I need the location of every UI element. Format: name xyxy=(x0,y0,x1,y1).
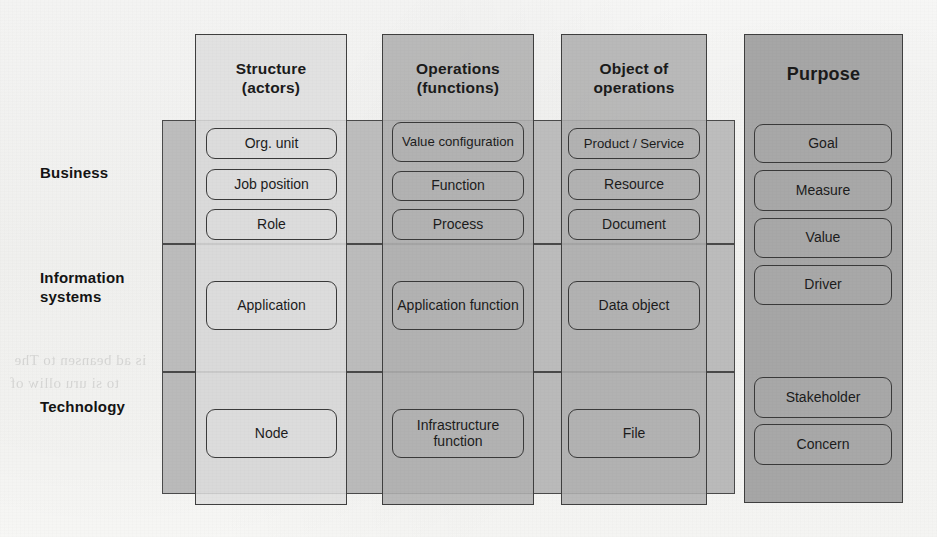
layer-label-information-systems-line1: Information xyxy=(40,268,170,287)
node-job-position[interactable]: Job position xyxy=(206,169,337,200)
aspect-column-structure-title-line2: (actors) xyxy=(196,78,346,97)
aspect-column-purpose-title-line1: Purpose xyxy=(745,65,902,84)
layer-label-business: Business xyxy=(40,163,158,182)
node-concern[interactable]: Concern xyxy=(754,424,892,465)
layer-label-information-systems: Information systems xyxy=(40,268,170,306)
aspect-column-object-of-operations-title: Object of operations xyxy=(562,59,706,97)
node-driver[interactable]: Driver xyxy=(754,265,892,305)
node-process[interactable]: Process xyxy=(392,209,524,240)
aspect-column-object-of-operations-title-line1: Object of xyxy=(562,59,706,78)
node-infrastructure-function[interactable]: Infrastructure function xyxy=(392,409,524,458)
node-resource[interactable]: Resource xyxy=(568,169,700,200)
node-function[interactable]: Function xyxy=(392,171,524,201)
aspect-column-operations-title: Operations (functions) xyxy=(383,59,533,97)
aspect-column-structure-title: Structure (actors) xyxy=(196,59,346,97)
aspect-column-object-of-operations-title-line2: operations xyxy=(562,78,706,97)
node-value-configuration[interactable]: Value configuration xyxy=(392,122,524,162)
aspect-column-purpose-title: Purpose xyxy=(745,65,902,84)
aspect-column-operations-title-line1: Operations xyxy=(383,59,533,78)
architecture-framework-diagram: Business Information systems Technology … xyxy=(0,0,937,537)
node-stakeholder[interactable]: Stakeholder xyxy=(754,377,892,418)
layer-label-technology: Technology xyxy=(40,397,170,416)
layer-label-information-systems-line2: systems xyxy=(40,287,170,306)
node-org-unit[interactable]: Org. unit xyxy=(206,128,337,159)
node-node[interactable]: Node xyxy=(206,409,337,458)
node-file[interactable]: File xyxy=(568,409,700,458)
node-application[interactable]: Application xyxy=(206,281,337,330)
node-measure[interactable]: Measure xyxy=(754,170,892,211)
node-application-function[interactable]: Application function xyxy=(392,281,524,330)
node-value[interactable]: Value xyxy=(754,218,892,258)
node-goal[interactable]: Goal xyxy=(754,124,892,163)
node-document[interactable]: Document xyxy=(568,209,700,240)
aspect-column-structure-title-line1: Structure xyxy=(196,59,346,78)
node-product-service[interactable]: Product / Service xyxy=(568,128,700,159)
aspect-column-operations-title-line2: (functions) xyxy=(383,78,533,97)
node-role[interactable]: Role xyxy=(206,209,337,240)
node-data-object[interactable]: Data object xyxy=(568,281,700,330)
